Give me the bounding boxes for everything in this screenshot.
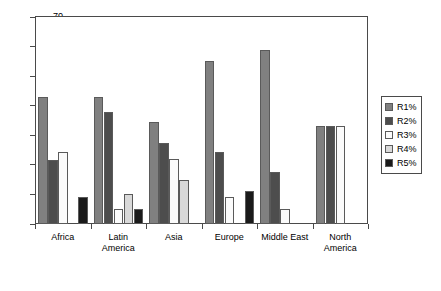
bar [260,50,270,224]
x-axis-tick [202,224,203,229]
bar [225,197,235,224]
bar [336,126,346,224]
bar-group [316,16,366,224]
bar [134,209,144,224]
bar [149,122,159,224]
x-axis-category-label-line: North [313,232,369,243]
bar [48,160,58,224]
bar [58,152,68,224]
x-axis-tick [313,224,314,229]
legend-label: R5% [397,159,417,168]
x-axis-tick [35,224,36,229]
bar [38,97,48,224]
legend-swatch-icon [385,117,393,125]
x-axis-tick [368,224,369,229]
bar-group [149,16,199,224]
bar [270,172,280,224]
bar [94,97,104,224]
bar-group [260,16,310,224]
x-axis-tick [257,224,258,229]
legend-item: R1% [385,100,417,114]
x-axis-category-label: Europe [202,232,258,243]
legend-swatch-icon [385,103,393,111]
legend-swatch-icon [385,145,393,153]
bar [179,180,189,224]
x-axis-category-label: LatinAmerica [91,232,147,254]
bar-chart: 10203040506070 AfricaLatinAmericaAsiaEur… [0,0,441,291]
legend-swatch-icon [385,159,393,167]
legend-label: R2% [397,117,417,126]
x-axis-category-label: Middle East [257,232,313,243]
x-axis-category-label-line: Latin [91,232,147,243]
bar [245,191,255,224]
legend-label: R3% [397,131,417,140]
bar [280,209,290,224]
bar [326,126,336,224]
bar [124,194,134,224]
x-axis-category-label: Africa [35,232,91,243]
x-axis-category-label-line: Asia [146,232,202,243]
x-axis-tick [91,224,92,229]
chart-legend: R1%R2%R3%R4%R5% [381,96,422,174]
legend-item: R5% [385,156,417,170]
bar [316,126,326,224]
x-axis-category-label-line: America [313,243,369,254]
bar-group [38,16,88,224]
x-axis-category-label: Asia [146,232,202,243]
bar [78,197,88,224]
bar [215,152,225,224]
bar-group [205,16,255,224]
legend-label: R4% [397,145,417,154]
bar [205,61,215,224]
bar [169,159,179,224]
legend-label: R1% [397,103,417,112]
x-axis-tick [146,224,147,229]
legend-item: R2% [385,114,417,128]
x-axis-category-label-line: America [91,243,147,254]
legend-swatch-icon [385,131,393,139]
legend-item: R3% [385,128,417,142]
bar [114,209,124,224]
legend-item: R4% [385,142,417,156]
x-axis-category-label-line: Middle East [257,232,313,243]
x-axis-category-label: NorthAmerica [313,232,369,254]
bar [104,112,114,224]
bar [159,143,169,224]
bar-group [94,16,144,224]
x-axis-category-label-line: Africa [35,232,91,243]
x-axis-category-label-line: Europe [202,232,258,243]
